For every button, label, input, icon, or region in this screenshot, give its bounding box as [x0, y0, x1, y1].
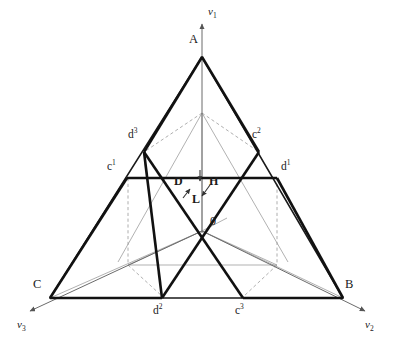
point-label-c2-sup: 2 [257, 126, 261, 135]
point-label-c2: c2 [252, 129, 261, 141]
seg-A-d3 [144, 57, 202, 152]
point-label-d2-sup: 2 [159, 302, 163, 311]
vertex-label-C: C [33, 278, 41, 291]
seg-d1-B [277, 178, 343, 298]
axis-label-v2: v2 [365, 319, 374, 330]
point-label-c3-sup: 3 [240, 302, 244, 311]
diagram-canvas [0, 0, 393, 345]
seg-c1-C [50, 178, 127, 298]
dash-innerapex-c2 [202, 113, 259, 152]
point-label-c1-sup: 1 [112, 158, 116, 167]
dash-box-right-to-c3 [243, 265, 277, 297]
point-label-d1: d1 [281, 161, 291, 173]
dash-innerapex-d3 [144, 113, 202, 152]
point-label-d3-sup: 3 [134, 126, 138, 135]
point-label-c1: c1 [107, 161, 116, 173]
point-label-c3: c3 [235, 305, 244, 317]
seg-A-c2 [202, 57, 259, 152]
point-label-d2: d2 [153, 305, 163, 317]
origin-label: 0 [210, 215, 216, 227]
point-label-d3: d3 [128, 129, 138, 141]
axis-label-v1-sub: 1 [213, 11, 217, 20]
geometry-figure: A B C c1 d1 d3 c2 d2 c3 0 v1 v2 v3 D H L [0, 0, 393, 345]
vertex-label-A: A [189, 33, 198, 46]
region-label-D: D [174, 175, 183, 187]
region-label-L: L [192, 193, 200, 205]
arrow-up-left [183, 189, 190, 198]
axis-label-v3-sub: 3 [22, 324, 26, 333]
axis-label-v2-sub: 2 [370, 324, 374, 333]
axes [30, 24, 365, 311]
axis-label-v3: v3 [17, 319, 26, 330]
vertex-label-B: B [345, 278, 353, 291]
axis-label-v1: v1 [208, 6, 217, 17]
region-label-H: H [209, 175, 218, 187]
point-label-d1-sup: 1 [287, 158, 291, 167]
